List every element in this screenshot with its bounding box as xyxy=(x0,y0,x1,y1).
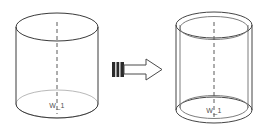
transform-arrow-group xyxy=(112,59,162,80)
diagram-canvas: W_1 xyxy=(0,0,266,138)
arrow-tail-stripe-1 xyxy=(115,62,117,77)
hollow-cylinder-group: W_1 xyxy=(176,12,252,123)
cylinder-shell-diagram: W_1 xyxy=(0,0,266,138)
hollow-cylinder-label: W_1 xyxy=(206,107,222,115)
arrow-tail-stripe-2 xyxy=(119,62,121,77)
arrow-head-icon xyxy=(124,59,162,80)
arrow-tail-block xyxy=(112,62,124,77)
solid-cylinder-group: W_1 xyxy=(16,13,98,118)
solid-cylinder-label: W_1 xyxy=(49,102,65,110)
